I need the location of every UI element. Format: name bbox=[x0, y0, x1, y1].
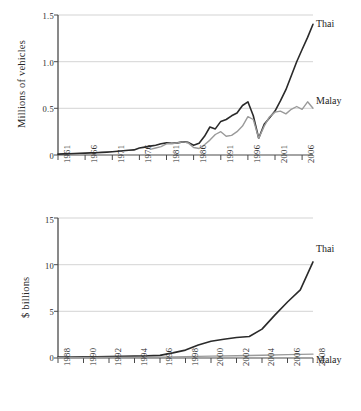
vehicles-y-tick-1_5: 1.5 bbox=[28, 11, 54, 21]
exports-x-tick-1990: 1990 bbox=[88, 348, 98, 366]
vehicles-x-tick-1976: 1976 bbox=[143, 145, 153, 163]
vehicles-x-tick-2001: 2001 bbox=[279, 145, 289, 163]
exports-x-tick-2000: 2000 bbox=[215, 348, 225, 366]
exports-plot-area bbox=[0, 205, 361, 411]
exports-y-tick-0: 0 bbox=[28, 353, 54, 363]
exports-x-tick-1992: 1992 bbox=[113, 348, 123, 366]
exports-x-tick-1996: 1996 bbox=[164, 348, 174, 366]
vehicles-x-tick-1991: 1991 bbox=[225, 145, 235, 163]
vehicles-y-tick-1_0: 1.0 bbox=[28, 58, 54, 68]
vehicles-line-malay bbox=[150, 102, 313, 150]
vehicles-series-label-thai: Thai bbox=[316, 18, 334, 29]
exports-x-tick-1988: 1988 bbox=[62, 348, 72, 366]
exports-y-tick-10: 10 bbox=[28, 261, 54, 271]
vehicles-line-thai bbox=[58, 24, 313, 154]
exports-x-tick-1998: 1998 bbox=[190, 348, 200, 366]
exports-line-thai bbox=[58, 262, 313, 357]
vehicles-x-tick-1981: 1981 bbox=[171, 145, 181, 163]
vehicles-y-axis-label: Millions of vehicles bbox=[16, 40, 27, 128]
exports-x-tick-2002: 2002 bbox=[241, 348, 251, 366]
vehicles-x-tick-1971: 1971 bbox=[116, 145, 126, 163]
exports-y-tick-15: 15 bbox=[28, 215, 54, 225]
vehicles-x-tick-1996: 1996 bbox=[252, 145, 262, 163]
vehicles-x-tick-1961: 1961 bbox=[62, 145, 72, 163]
exports-x-tick-2004: 2004 bbox=[266, 348, 276, 366]
vehicles-x-tick-1966: 1966 bbox=[89, 145, 99, 163]
vehicles-series-label-malay: Malay bbox=[316, 95, 342, 106]
vehicles-y-tick-0_5: 0.5 bbox=[28, 104, 54, 114]
vehicles-chart: Millions of vehicles 1.5 1.0 0.5 0 Thai … bbox=[0, 0, 361, 205]
vehicles-y-tick-0: 0 bbox=[28, 151, 54, 161]
vehicles-x-tick-2006: 2006 bbox=[306, 145, 316, 163]
vehicles-x-tick-1986: 1986 bbox=[198, 145, 208, 163]
exports-x-tick-2006: 2006 bbox=[292, 348, 302, 366]
exports-chart: 1988199019921994199619982000200220042006… bbox=[0, 205, 361, 411]
exports-series-label-malay: Malay bbox=[316, 354, 342, 365]
exports-x-tick-1994: 1994 bbox=[139, 348, 149, 366]
vehicles-plot-area bbox=[0, 0, 361, 205]
exports-series-label-thai: Thai bbox=[316, 243, 334, 254]
exports-y-tick-5: 5 bbox=[28, 307, 54, 317]
